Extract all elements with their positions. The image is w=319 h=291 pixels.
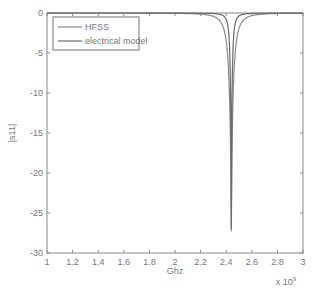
x-tick-label: 1: [44, 257, 49, 267]
y-axis-label: |s11|: [7, 124, 17, 143]
x-tick-label: 1.4: [92, 257, 105, 267]
y-tick-label: -25: [30, 208, 43, 218]
x-tick-label: 1.2: [66, 257, 79, 267]
y-tick-label: -30: [30, 248, 43, 258]
legend-label-hfss: HFSS: [85, 22, 109, 32]
y-tick-label: -15: [30, 128, 43, 138]
legend: HFSS electrical model: [53, 17, 148, 50]
x-tick-label: 2.2: [194, 257, 207, 267]
x-tick-label: 1.6: [118, 257, 131, 267]
x-tick-label: 2.6: [246, 257, 259, 267]
x-tick-label: 1.8: [143, 257, 156, 267]
x-multiplier-label: x 109: [276, 276, 297, 287]
legend-label-electrical: electrical model: [85, 36, 148, 46]
x-axis-label: Ghz: [167, 266, 184, 276]
x-tick-label: 2.4: [220, 257, 233, 267]
y-tick-label: -20: [30, 168, 43, 178]
y-tick-label: -10: [30, 88, 43, 98]
x-tick-label: 3: [300, 257, 305, 267]
x-tick-label: 2.8: [271, 257, 284, 267]
y-tick-label: 0: [38, 8, 43, 18]
y-tick-label: -5: [35, 48, 43, 58]
s11-chart: 11.21.41.61.822.22.42.62.83 0-5-10-15-20…: [0, 0, 319, 291]
